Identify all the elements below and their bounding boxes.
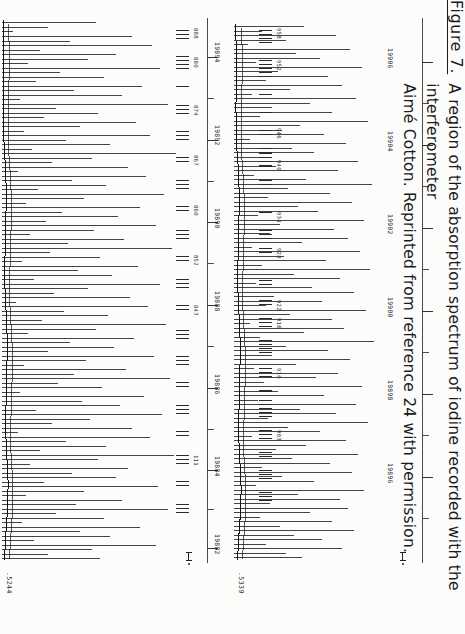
figure-caption: Figure 7. A region of the absorption spe… [393, 0, 465, 634]
comb-label: 880 [193, 57, 199, 68]
scale-bar-dot [188, 563, 190, 565]
scale-bar-upper [188, 552, 190, 565]
figure-number: Figure 7. [447, 0, 465, 74]
axis-tick-label: 19894 [213, 42, 221, 63]
comb-label: 946 [276, 128, 282, 139]
spectrum-panel-lower: 958 952 946 940 934 928 922 916 910 903 … [232, 0, 394, 634]
spectrum-trace-upper [0, 0, 232, 634]
spectrum-trace-lower [232, 0, 394, 634]
caption-line-2: Aimé Cotton. Reprinted from reference 24… [400, 83, 418, 553]
axis-tick-label: 19886 [213, 374, 221, 395]
ordinate-label-upper: .5244 [5, 572, 13, 594]
axis-tick-label: 19890 [213, 208, 221, 229]
comb-label: 958 [276, 28, 282, 39]
comb-label: 934 [276, 212, 282, 223]
axis-tick-label: 19892 [213, 125, 221, 146]
spectrum-panel-upper: 888 880 874 867 860 852 843 111 19894 19… [0, 0, 232, 634]
comb-label: 860 [193, 205, 199, 216]
comb-label: 867 [193, 155, 199, 166]
comb-label: 910 [276, 368, 282, 379]
scale-bar-line [189, 552, 190, 561]
ordinate-label-lower: .5339 [237, 572, 245, 594]
axis-tick-label: 19884 [213, 456, 221, 477]
comb-label: 916 [276, 318, 282, 329]
comb-label: 940 [276, 160, 282, 171]
comb-label: 888 [193, 28, 199, 39]
comb-label: 843 [193, 305, 199, 316]
comb-label: 903 [276, 430, 282, 441]
comb-label: 874 [193, 105, 199, 116]
comb-label: 922 [276, 300, 282, 311]
figure-page: 888 880 874 867 860 852 843 111 19894 19… [0, 0, 465, 634]
axis-line-upper [207, 18, 208, 563]
comb-label: 852 [193, 255, 199, 266]
comb-label: 952 [276, 60, 282, 71]
comb-label: 111 [193, 455, 199, 466]
comb-label: 928 [276, 248, 282, 259]
caption-line-1: A region of the absorption spectrum of i… [423, 83, 463, 590]
axis-tick-label: 19882 [213, 534, 221, 555]
axis-tick-label: 19888 [213, 291, 221, 312]
